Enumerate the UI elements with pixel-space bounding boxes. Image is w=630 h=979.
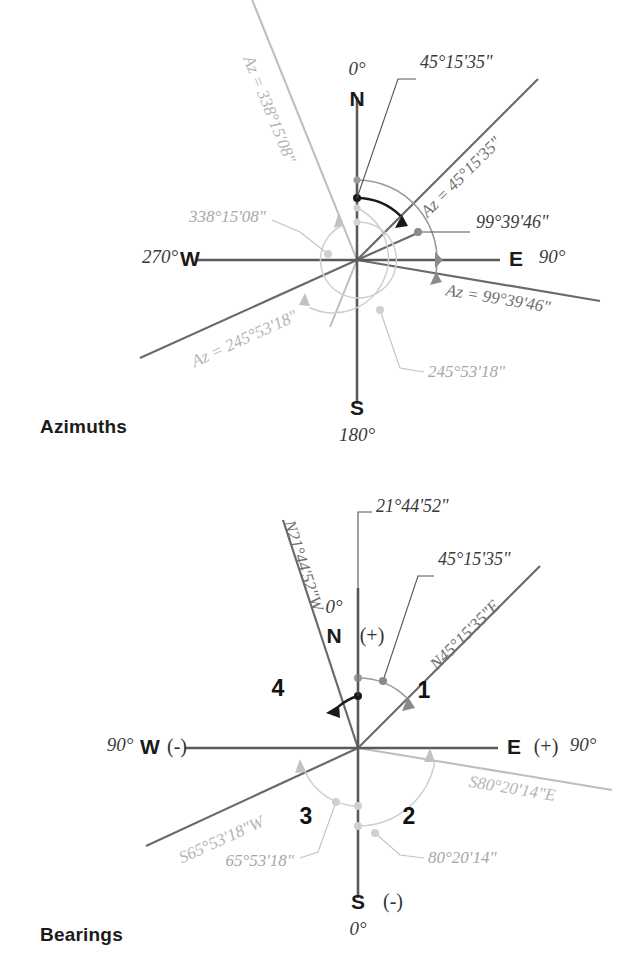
callout-az-338: 338°15'08" bbox=[188, 207, 267, 226]
azimuth-north-letter: N bbox=[349, 87, 364, 110]
azimuth-north-value: 0° bbox=[348, 58, 366, 79]
quadrant-1: 1 bbox=[418, 677, 431, 703]
callout-az-99: 99°39'46" bbox=[476, 212, 549, 232]
ray-az-245-label: Az = 245°53'18" bbox=[188, 306, 301, 371]
bearings-east-letter: E bbox=[507, 735, 521, 758]
bearings-south-value: 0° bbox=[349, 918, 367, 939]
ray-az-99-label: Az = 99°39'46" bbox=[444, 280, 553, 316]
bearings-north-value: 0° bbox=[325, 596, 343, 617]
callout-bearing-n45e: 45°15'35" bbox=[438, 549, 511, 569]
azimuth-west-value: 270° bbox=[142, 246, 179, 267]
surveying-angles-figure: 0° N E 90° S 180° 270° W Az = 45°15'35" … bbox=[0, 0, 630, 979]
bearings-west-letter: W bbox=[140, 735, 160, 758]
arc-bearing-n45-arrowhead bbox=[402, 697, 415, 711]
bearings-west-sign: (-) bbox=[167, 735, 187, 758]
bearings-north-sign: (+) bbox=[360, 624, 385, 647]
callout-az-245-dot bbox=[376, 306, 384, 314]
arc-bearing-s65w-arrowhead bbox=[295, 759, 306, 773]
bearings-caption: Bearings bbox=[40, 924, 123, 945]
callout-bearing-n21w: 21°44'52" bbox=[376, 496, 449, 516]
arc-az-245-arrowhead bbox=[299, 293, 310, 306]
callout-az-338-leader bbox=[272, 220, 328, 254]
callout-bearing-n45e-dot bbox=[379, 677, 387, 685]
quadrant-4: 4 bbox=[272, 675, 285, 701]
azimuth-east-letter: E bbox=[509, 247, 523, 270]
ray-bearing-n21w-label: N21°44'52"W bbox=[280, 517, 328, 615]
arc-bearing-n21w-arrowhead bbox=[326, 705, 340, 718]
bearings-east-sign: (+) bbox=[534, 735, 559, 758]
bearings-south-letter: S bbox=[351, 890, 365, 913]
arc-az-338-start-dot bbox=[354, 219, 361, 226]
azimuths-caption: Azimuths bbox=[40, 416, 127, 437]
ray-bearing-s80e-label: S80°20'14"E bbox=[468, 772, 558, 805]
quadrant-2: 2 bbox=[403, 803, 416, 829]
arc-bearing-s80e bbox=[358, 761, 435, 826]
bearings-east-value: 90° bbox=[570, 734, 597, 755]
azimuth-west-letter: W bbox=[180, 247, 200, 270]
ray-az-45-label: Az = 45°15'35" bbox=[416, 132, 505, 221]
callout-az-45: 45°15'35" bbox=[420, 52, 493, 72]
arc-bearing-s65w bbox=[305, 772, 358, 807]
arc-az-45 bbox=[357, 198, 401, 216]
arc-bearing-s80e-arrowhead bbox=[424, 748, 435, 762]
callout-bearing-n21w-leader bbox=[358, 512, 372, 696]
callout-bearing-s65w-dot bbox=[332, 798, 340, 806]
bearings-diagram: 0° N (+) E (+) 90° S (-) 0° 90° W (-) 1 … bbox=[40, 496, 612, 945]
callout-az-245: 245°53'18" bbox=[428, 362, 506, 381]
arc-az-245-start-dot bbox=[354, 205, 361, 212]
ray-bearing-n45e-label: N45°15'35"E bbox=[426, 596, 504, 674]
bearings-north-letter: N bbox=[326, 624, 341, 647]
arc-bearing-s65w-start-dot bbox=[354, 802, 362, 810]
callout-az-99-dot bbox=[414, 228, 422, 236]
arc-bearing-s80e-start-dot bbox=[354, 822, 362, 830]
arc-az-99-start-dot bbox=[354, 177, 361, 184]
callout-az-338-dot bbox=[324, 250, 332, 258]
callout-bearing-s65w: 65°53'18" bbox=[225, 851, 294, 870]
azimuths-diagram: 0° N E 90° S 180° 270° W Az = 45°15'35" … bbox=[40, 0, 600, 445]
azimuth-south-value: 180° bbox=[339, 424, 376, 445]
callout-bearing-s80e-dot bbox=[371, 829, 379, 837]
azimuth-east-value: 90° bbox=[539, 246, 566, 267]
callout-bearing-s80e-leader bbox=[375, 833, 424, 858]
axis-east-marker bbox=[435, 252, 443, 268]
callout-az-245-leader bbox=[380, 310, 424, 372]
ray-az-338-label: Az = 338°15'08" bbox=[239, 52, 300, 167]
callout-bearing-n45e-leader bbox=[383, 576, 434, 681]
callout-bearing-s80e: 80°20'14" bbox=[428, 848, 497, 867]
azimuth-south-letter: S bbox=[350, 396, 364, 419]
quadrant-3: 3 bbox=[300, 803, 313, 829]
bearings-south-sign: (-) bbox=[383, 890, 403, 913]
bearings-west-value: 90° bbox=[107, 734, 134, 755]
